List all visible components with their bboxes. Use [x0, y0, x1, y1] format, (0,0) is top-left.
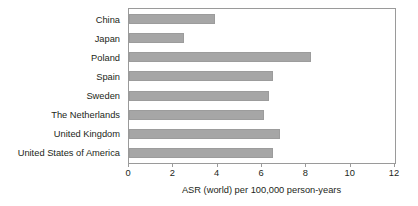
category-label: United States of America — [18, 148, 124, 158]
bar-segment — [129, 91, 269, 101]
table-row — [129, 129, 395, 139]
category-axis: China Japan Poland Spain Sweden The Neth… — [0, 10, 124, 162]
x-axis: 024681012 — [128, 163, 395, 183]
x-tick-mark — [172, 163, 173, 167]
x-tick-mark — [350, 163, 351, 167]
category-label: The Netherlands — [51, 110, 124, 120]
x-tick-mark — [394, 163, 395, 167]
table-row — [129, 33, 395, 43]
x-tick-label: 8 — [303, 168, 308, 179]
x-tick-mark — [217, 163, 218, 167]
x-tick-label: 12 — [389, 168, 399, 179]
table-row — [129, 110, 395, 120]
table-row — [129, 14, 395, 24]
table-row — [129, 52, 395, 62]
bar-segment — [129, 52, 311, 62]
table-row — [129, 91, 395, 101]
bar-segment — [129, 129, 280, 139]
table-row — [129, 71, 395, 81]
bar-chart-figure: China Japan Poland Spain Sweden The Neth… — [0, 0, 418, 206]
bar-segment — [129, 148, 273, 158]
table-row — [129, 148, 395, 158]
x-tick-label: 2 — [170, 168, 175, 179]
x-tick-label: 6 — [258, 168, 263, 179]
bars-layer — [129, 9, 395, 163]
x-tick-label: 0 — [125, 168, 130, 179]
x-tick-mark — [305, 163, 306, 167]
x-axis-title: ASR (world) per 100,000 person-years — [128, 184, 395, 196]
bar-segment — [129, 14, 215, 24]
category-label: Spain — [96, 72, 124, 82]
x-tick-mark — [261, 163, 262, 167]
bar-segment — [129, 110, 264, 120]
bar-segment — [129, 71, 273, 81]
category-label: United Kingdom — [54, 129, 124, 139]
category-label: China — [96, 15, 124, 25]
plot-area — [128, 8, 396, 164]
x-tick-mark — [128, 163, 129, 167]
x-tick-label: 10 — [344, 168, 354, 179]
category-label: Sweden — [86, 91, 124, 101]
category-label: Japan — [95, 34, 124, 44]
x-tick-label: 4 — [214, 168, 219, 179]
bar-segment — [129, 33, 184, 43]
category-label: Poland — [91, 53, 124, 63]
